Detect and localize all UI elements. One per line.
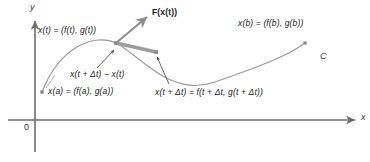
secant-vector-arrow (116, 43, 156, 52)
curve-name-label: C (320, 51, 327, 61)
point-marker-a (40, 90, 43, 93)
parametric-curve (42, 40, 305, 92)
displaced-point-label: x(t + Δt) = f(t + Δt, g(t + Δt)) (155, 88, 263, 97)
point-marker-t-plus-dt (154, 50, 158, 54)
point-marker-b (303, 41, 306, 44)
secant-difference-label: x(t + Δt) − x(t) (70, 70, 124, 79)
figure-container: y x 0 F(x(t)) x(t) = (f(t), g(t)) x(a) =… (0, 0, 370, 162)
start-point-label: x(a) = (f(a), g(a)) (48, 87, 113, 96)
end-point-label: x(b) = (f(b), g(b)) (238, 19, 303, 28)
origin-label: 0 (24, 123, 29, 132)
point-marker-t (114, 41, 118, 45)
position-vector-label: x(t) = (f(t), g(t)) (38, 26, 96, 35)
leader-line-point-dt (157, 57, 169, 84)
field-vector-arrow (116, 17, 147, 43)
leader-line-secant (97, 50, 114, 68)
field-vector-label: F(x(t)) (152, 8, 177, 17)
y-axis-label: y (30, 3, 35, 12)
x-axis-label: x (361, 113, 366, 122)
